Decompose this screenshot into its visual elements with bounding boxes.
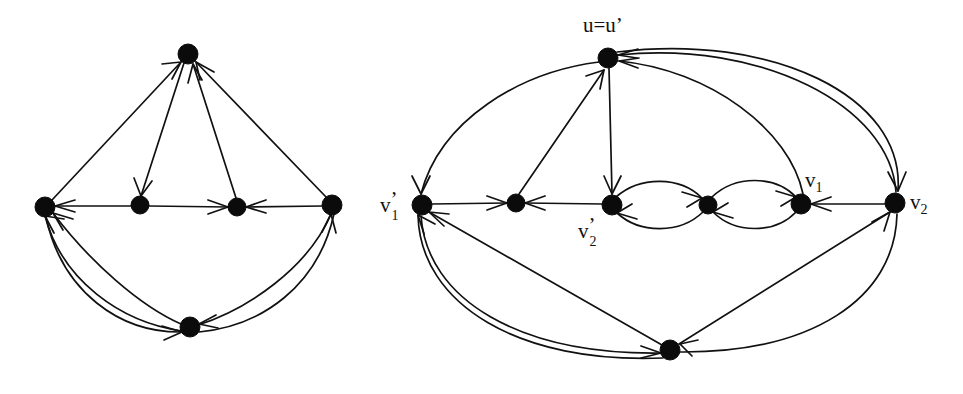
- label-v1-prime-sub: 1: [392, 208, 399, 223]
- edge-v2p-to-a: [525, 203, 603, 204]
- left-nodes: [35, 44, 342, 337]
- node-v1-prime[interactable]: [412, 195, 432, 215]
- node-a[interactable]: [507, 194, 525, 212]
- node-left-top[interactable]: [178, 44, 198, 64]
- edge-b-to-v1-upper: [712, 181, 796, 198]
- label-v1-base: v: [805, 168, 816, 192]
- label-v1-prime: v’1: [380, 187, 399, 223]
- node-left-bot[interactable]: [180, 317, 200, 337]
- label-v2: v2: [910, 190, 928, 217]
- edge-u-to-v1p: [421, 62, 599, 194]
- edge-bot-to-v1p-arc: [418, 215, 663, 358]
- edge-m1-to-m2: [149, 206, 228, 207]
- arrowhead-into-bot-from-v1p: [641, 346, 661, 358]
- edge-b-to-v2p-lower: [617, 212, 703, 229]
- edge-right-to-m2: [246, 206, 323, 207]
- edge-v2-to-u: [618, 53, 896, 192]
- label-v2-sub: 2: [921, 202, 928, 217]
- edge-bot-to-v2: [679, 212, 890, 344]
- left-digraph: [35, 44, 342, 340]
- label-v2-base: v: [910, 190, 921, 214]
- edge-bot-to-right-outer: [199, 214, 334, 332]
- label-v1: v1: [805, 168, 823, 195]
- node-v1[interactable]: [791, 194, 811, 214]
- label-v2-prime-base: v: [578, 219, 589, 243]
- node-left-mid2[interactable]: [228, 198, 246, 216]
- edge-right-to-top: [196, 62, 327, 198]
- left-arrowheads: [45, 62, 336, 340]
- edge-a-to-u: [519, 70, 604, 194]
- node-left-right[interactable]: [322, 195, 342, 215]
- edge-u-to-v2p: [609, 68, 612, 194]
- edge-v1p-to-bot: [421, 216, 661, 353]
- edge-v2p-to-b-upper: [616, 181, 702, 198]
- edge-v1-to-b-lower: [713, 212, 796, 229]
- label-v2-prime: v’2: [578, 213, 597, 249]
- edge-v1p-to-a: [431, 203, 507, 204]
- left-edges: [45, 62, 334, 332]
- edge-v2-to-bot: [680, 214, 897, 352]
- node-left-left[interactable]: [35, 197, 55, 217]
- edge-v1-to-u: [619, 61, 803, 194]
- node-u[interactable]: [598, 48, 618, 68]
- arrowhead-into-m1-from-top: [134, 178, 152, 196]
- label-v1-sub: 1: [816, 180, 823, 195]
- figure-root: u=u’ v’1 v’2 v1 v2: [0, 0, 963, 394]
- right-edges: [418, 49, 898, 359]
- node-b[interactable]: [699, 196, 717, 214]
- label-u: u=u’: [583, 13, 623, 37]
- label-v2-prime-sub: 2: [590, 234, 597, 249]
- edge-u-to-v2: [617, 49, 898, 191]
- node-v2[interactable]: [885, 193, 905, 213]
- right-digraph: u=u’ v’1 v’2 v1 v2: [380, 13, 928, 360]
- node-right-bot[interactable]: [660, 340, 680, 360]
- arrowhead-into-v1p-from-bot: [429, 212, 449, 226]
- edge-m2-to-top: [193, 64, 236, 198]
- edge-bot-to-v1p: [429, 212, 662, 345]
- node-v2-prime[interactable]: [602, 195, 622, 215]
- node-left-mid1[interactable]: [131, 196, 149, 214]
- graph-canvas: u=u’ v’1 v’2 v1 v2: [0, 0, 963, 394]
- label-v1-prime-base: v: [380, 193, 391, 217]
